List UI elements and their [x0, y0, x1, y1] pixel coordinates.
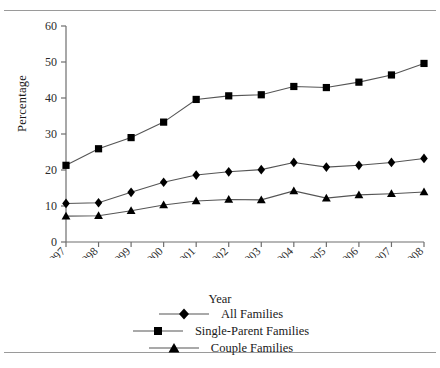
x-tick-label: 2002	[205, 245, 230, 258]
legend-marker-diamond-icon	[157, 306, 211, 322]
data-point-marker	[257, 165, 265, 175]
data-point-marker	[225, 167, 233, 177]
data-point-marker	[95, 145, 102, 152]
x-tick-label: 2008	[401, 245, 426, 258]
series-line	[66, 158, 424, 203]
data-point-marker	[127, 187, 135, 197]
data-point-marker	[388, 158, 396, 168]
x-tick-label: 1998	[75, 245, 100, 258]
legend-item: Couple Families	[147, 340, 293, 356]
data-point-marker	[289, 186, 298, 194]
data-point-marker	[420, 154, 428, 164]
figure-top-rule	[4, 10, 436, 11]
y-tick-label: 10	[45, 199, 57, 213]
legend-label: Single-Parent Families	[185, 324, 309, 339]
data-point-marker	[192, 170, 200, 180]
legend-marker-square-icon	[131, 323, 185, 339]
series-line	[66, 191, 424, 216]
y-tick-label: 60	[45, 19, 57, 33]
data-point-marker	[62, 199, 70, 209]
y-tick-label: 20	[45, 163, 57, 177]
legend-item: All Families	[157, 306, 283, 322]
data-point-marker	[388, 71, 395, 78]
y-tick-label: 40	[45, 91, 57, 105]
data-point-marker	[323, 84, 330, 91]
x-tick-label: 2006	[336, 245, 361, 258]
x-tick-label: 2005	[303, 245, 328, 258]
legend-item: Single-Parent Families	[131, 323, 309, 339]
x-tick-label: 2007	[368, 245, 393, 258]
y-tick-label: 50	[45, 55, 57, 69]
data-point-marker	[290, 158, 298, 168]
data-point-marker	[224, 195, 233, 203]
legend-label: All Families	[211, 307, 283, 322]
data-point-marker	[420, 188, 429, 196]
data-point-marker	[160, 119, 167, 126]
plot-area: 0102030405060199719981999200020012002200…	[0, 18, 440, 258]
data-point-marker	[323, 162, 331, 172]
data-point-marker	[355, 160, 363, 170]
data-point-marker	[258, 91, 265, 98]
x-tick-label: 2001	[173, 245, 198, 258]
chart-legend: All FamiliesSingle-Parent FamiliesCouple…	[0, 306, 440, 356]
legend-marker-triangle-icon	[147, 340, 201, 356]
x-tick-label: 2000	[140, 245, 165, 258]
data-point-marker	[225, 92, 232, 99]
x-tick-label: 2003	[238, 245, 263, 258]
data-point-marker	[355, 79, 362, 86]
data-point-marker	[420, 60, 427, 67]
x-axis-label: Year	[0, 292, 440, 307]
data-point-marker	[127, 134, 134, 141]
data-point-marker	[290, 83, 297, 90]
x-tick-label: 1999	[108, 245, 133, 258]
x-tick-label: 2004	[270, 245, 295, 258]
data-point-marker	[95, 198, 103, 208]
series-line	[66, 63, 424, 165]
line-chart: 0102030405060199719981999200020012002200…	[0, 18, 440, 258]
figure: 0102030405060199719981999200020012002200…	[0, 0, 440, 368]
y-axis-label: Percentage	[15, 44, 30, 164]
data-point-marker	[193, 96, 200, 103]
y-tick-label: 30	[45, 127, 57, 141]
legend-label: Couple Families	[201, 341, 293, 356]
data-point-marker	[62, 162, 69, 169]
data-point-marker	[160, 177, 168, 187]
